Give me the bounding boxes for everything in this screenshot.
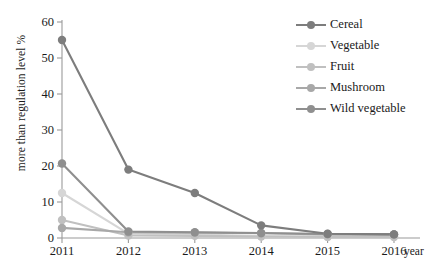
legend-item[interactable]: Cereal xyxy=(296,14,406,35)
data-point xyxy=(390,230,398,238)
legend-label: Vegetable xyxy=(330,38,379,53)
legend-item[interactable]: Mushroom xyxy=(296,77,406,98)
line-chart: more than regulation level % year 605040… xyxy=(0,0,443,275)
data-point xyxy=(191,189,199,197)
data-point xyxy=(58,189,66,197)
data-point xyxy=(124,165,132,173)
data-point xyxy=(58,36,66,44)
data-point xyxy=(257,229,265,237)
legend-item[interactable]: Fruit xyxy=(296,56,406,77)
legend-label: Fruit xyxy=(330,59,354,74)
legend-marker-icon xyxy=(296,40,326,52)
legend-item[interactable]: Wild vegetable xyxy=(296,98,406,119)
legend-marker-icon xyxy=(296,103,326,115)
legend-label: Wild vegetable xyxy=(330,101,406,116)
data-point xyxy=(124,227,132,235)
data-point xyxy=(191,228,199,236)
data-point xyxy=(323,229,331,237)
legend: CerealVegetableFruitMushroomWild vegetab… xyxy=(296,14,406,119)
legend-marker-icon xyxy=(296,61,326,73)
data-point xyxy=(257,221,265,229)
legend-marker-icon xyxy=(296,19,326,31)
data-point xyxy=(58,224,66,232)
legend-label: Mushroom xyxy=(330,80,385,95)
legend-label: Cereal xyxy=(330,17,363,32)
legend-marker-icon xyxy=(296,82,326,94)
legend-item[interactable]: Vegetable xyxy=(296,35,406,56)
data-point xyxy=(58,159,66,167)
data-point xyxy=(58,216,66,224)
